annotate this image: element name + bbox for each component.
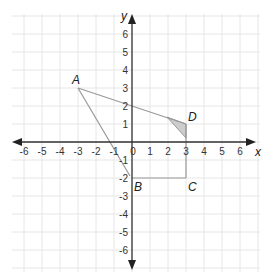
y-tick-label: -1 bbox=[119, 155, 128, 166]
point-label-c: C bbox=[188, 180, 197, 194]
x-tick-label: 3 bbox=[183, 146, 189, 157]
y-tick-label: 2 bbox=[122, 101, 128, 112]
point-label-b: B bbox=[134, 180, 142, 194]
x-tick-label: -3 bbox=[74, 146, 83, 157]
x-axis-label: x bbox=[254, 145, 262, 159]
shaded-triangle bbox=[167, 117, 186, 138]
y-tick-label: 5 bbox=[122, 47, 128, 58]
y-axis-label: y bbox=[120, 9, 128, 23]
point-label-a: A bbox=[71, 73, 80, 87]
x-tick-label: 5 bbox=[219, 146, 225, 157]
point-label-d: D bbox=[188, 110, 197, 124]
x-tick-labels: -6-5-4-3-2-10123456 bbox=[20, 146, 244, 157]
y-tick-label: 3 bbox=[122, 83, 128, 94]
x-tick-label: -4 bbox=[56, 146, 65, 157]
y-tick-label: -6 bbox=[119, 245, 128, 256]
x-tick-label: 1 bbox=[147, 146, 153, 157]
y-tick-label: 6 bbox=[122, 29, 128, 40]
y-tick-label: 4 bbox=[122, 65, 128, 76]
y-tick-label: -2 bbox=[119, 173, 128, 184]
x-tick-label: -6 bbox=[20, 146, 29, 157]
y-tick-label: -5 bbox=[119, 227, 128, 238]
x-tick-label: -2 bbox=[92, 146, 101, 157]
x-tick-label: 4 bbox=[201, 146, 207, 157]
x-tick-label: -1 bbox=[110, 146, 119, 157]
y-tick-label: -4 bbox=[119, 209, 128, 220]
y-tick-label: 1 bbox=[122, 119, 128, 130]
y-tick-label: -3 bbox=[119, 191, 128, 202]
x-tick-label: 6 bbox=[237, 146, 243, 157]
x-tick-label: 2 bbox=[165, 146, 171, 157]
grid bbox=[12, 14, 260, 272]
x-axis-left-arrow-icon bbox=[12, 138, 22, 146]
coordinate-plane: x y -6-5-4-3-2-10123456 654321-1-2-3-4-5… bbox=[0, 0, 270, 276]
x-tick-label: 0 bbox=[130, 146, 136, 157]
x-tick-label: -5 bbox=[38, 146, 47, 157]
